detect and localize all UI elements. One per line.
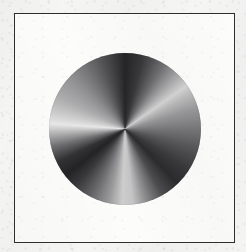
plate-frame-border [14,13,235,243]
figure-canvas: Angular (conic) gradient disc [0,0,246,252]
conic-gradient-disc [49,53,201,205]
gradient-disc-container [15,14,234,242]
